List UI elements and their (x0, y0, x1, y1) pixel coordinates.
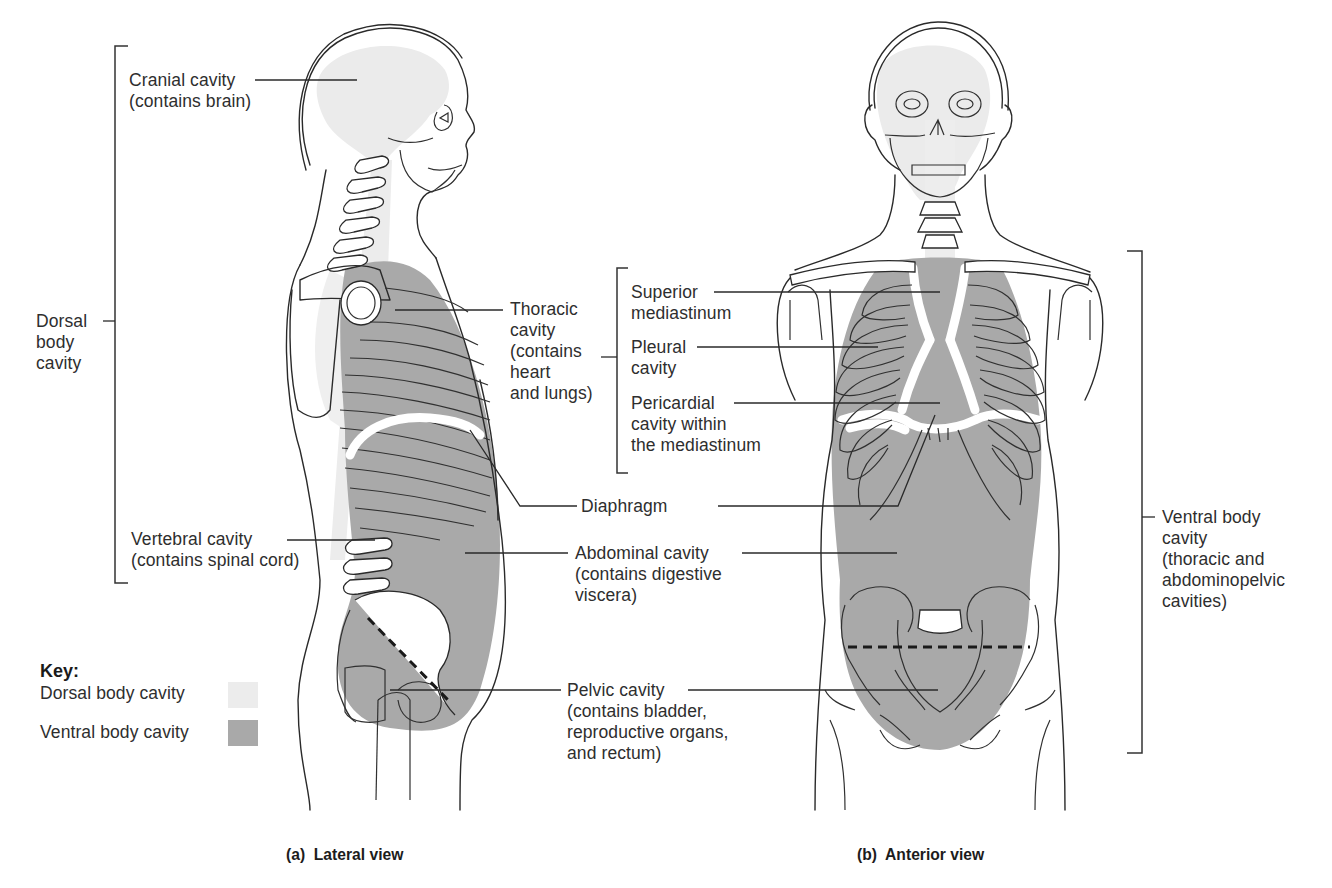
ventral-cavity-fill-anterior (832, 258, 1042, 751)
key-swatch-ventral (228, 720, 258, 746)
lumbar-vertebrae (344, 538, 392, 594)
key-item-dorsal-label: Dorsal body cavity (40, 683, 185, 704)
ventral-cavity-bracket (1127, 251, 1142, 753)
label-cranial-cavity: Cranial cavity (contains brain) (129, 70, 251, 112)
cranial-cavity-fill (317, 46, 449, 166)
anterior-view-figure (777, 22, 1102, 810)
label-ventral-body-cavity: Ventral body cavity (thoracic and abdomi… (1162, 507, 1285, 612)
key-title: Key: (40, 661, 79, 682)
label-superior-mediastinum: Superior mediastinum (631, 282, 731, 324)
label-dorsal-body-cavity: Dorsal body cavity (36, 311, 87, 374)
label-thoracic-cavity: Thoracic cavity (contains heart and lung… (510, 299, 593, 404)
label-pelvic-cavity: Pelvic cavity (contains bladder, reprodu… (567, 680, 729, 764)
label-pericardial-cavity: Pericardial cavity within the mediastinu… (631, 393, 761, 456)
key-swatch-dorsal (228, 682, 258, 708)
thoracic-subdivision-bracket (617, 268, 628, 473)
label-diaphragm: Diaphragm (581, 496, 668, 517)
caption-lateral-view: (a) Lateral view (286, 845, 403, 865)
label-abdominal-cavity: Abdominal cavity (contains digestive vis… (575, 543, 722, 606)
label-vertebral-cavity: Vertebral cavity (contains spinal cord) (131, 529, 300, 571)
dorsal-cavity-bracket (115, 46, 128, 583)
lateral-view-figure (286, 25, 505, 810)
label-pleural-cavity: Pleural cavity (631, 337, 686, 379)
key-item-ventral-label: Ventral body cavity (40, 722, 189, 743)
caption-anterior-view: (b) Anterior view (857, 845, 984, 865)
anterior-cervical-vertebrae (918, 202, 962, 248)
